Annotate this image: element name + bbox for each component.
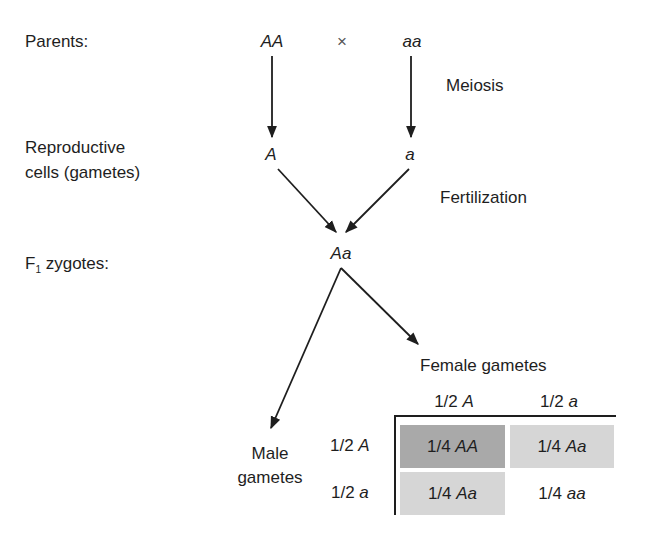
col-header-1: 1/2 A (434, 391, 474, 413)
punnett-cell-Aa-bottom: 1/4 Aa (400, 472, 505, 515)
col-header-2: 1/2 a (540, 391, 578, 413)
cross-symbol: × (337, 31, 347, 53)
fertilization-arrow-right (346, 169, 409, 232)
punnett-top-rule (394, 415, 616, 417)
female-gametes-arrow (341, 268, 418, 344)
male-gametes-title-line2: gametes (237, 467, 302, 489)
female-gametes-title: Female gametes (420, 355, 547, 377)
gamete-right: a (405, 144, 414, 166)
parent-genotype-right: aa (403, 31, 422, 53)
male-gametes-arrow (271, 268, 341, 428)
row-header-1: 1/2 A (330, 435, 370, 457)
male-gametes-title-line1: Male (252, 443, 289, 465)
parents-label: Parents: (25, 31, 88, 53)
punnett-cell-Aa-top: 1/4 Aa (510, 425, 614, 468)
meiosis-label: Meiosis (446, 75, 504, 97)
f1-genotype: Aa (331, 243, 352, 265)
gametes-label-line2: cells (gametes) (25, 162, 140, 184)
punnett-cell-aa: 1/4 aa (510, 472, 614, 515)
punnett-left-rule (394, 415, 396, 515)
fertilization-label: Fertilization (440, 187, 527, 209)
gamete-left: A (265, 144, 276, 166)
gametes-label-line1: Reproductive (25, 137, 125, 159)
f1-zygotes-label: F1 zygotes: (25, 253, 109, 281)
parent-genotype-left: AA (261, 31, 284, 53)
fertilization-arrow-left (278, 169, 336, 232)
row-header-2: 1/2 a (331, 482, 369, 504)
punnett-cell-AA: 1/4 AA (400, 425, 505, 468)
